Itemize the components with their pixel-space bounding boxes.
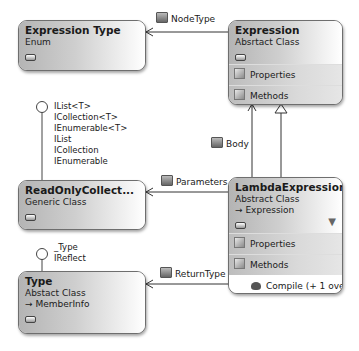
class-lambda-expression[interactable]: LambdaExpression Abstract Class → Expres… [228, 177, 343, 294]
class-kind: Absrtact Class [235, 37, 336, 48]
expand-section-icon [234, 258, 245, 269]
class-kind: Abstact Class [25, 288, 139, 299]
method-compile[interactable]: Compile (+ 1 ove... [229, 275, 342, 294]
interface-lollipop-icon [36, 248, 48, 260]
collapse-toggle-icon[interactable] [25, 54, 36, 61]
expand-section-icon [234, 237, 245, 248]
section-properties[interactable]: Properties [229, 64, 342, 85]
class-name: Expression [235, 24, 336, 37]
collapse-toggle-icon[interactable] [235, 222, 246, 229]
association-label-returntype: ReturnType [160, 267, 226, 280]
expand-section-icon [234, 89, 245, 100]
class-expression-type[interactable]: Expression Type Enum [18, 20, 146, 71]
class-expression[interactable]: Expression Absrtact Class Properties Met… [228, 20, 343, 105]
association-label-parameters: Parameters [161, 175, 228, 188]
interface-lollipop-icon [36, 101, 48, 113]
class-name: Type [25, 275, 139, 288]
interface-list: IList<T> ICollection<T> IEnumerable<T> I… [54, 101, 127, 167]
association-icon [160, 267, 172, 278]
expand-section-icon [234, 68, 245, 79]
interface-list: _Type IReflect [54, 242, 86, 264]
class-readonly-collection[interactable]: ReadOnlyCollect... Generic Class [18, 180, 146, 230]
section-properties[interactable]: Properties [229, 233, 342, 254]
collapse-toggle-icon[interactable] [25, 316, 36, 323]
association-icon [156, 12, 168, 23]
filter-icon[interactable]: ▼ [328, 216, 336, 227]
class-name: LambdaExpression [235, 181, 336, 194]
class-kind: Abstract Class [235, 194, 336, 205]
class-kind: Generic Class [25, 197, 139, 208]
collapse-toggle-icon[interactable] [235, 54, 246, 61]
collapse-toggle-icon[interactable] [25, 214, 36, 221]
base-class: → Expression [235, 205, 336, 216]
section-methods[interactable]: Methods [229, 254, 342, 275]
method-icon [251, 282, 261, 290]
association-label-nodetype: NodeType [156, 12, 215, 25]
class-name: ReadOnlyCollect... [25, 184, 139, 197]
class-type[interactable]: Type Abstact Class → MemberInfo [18, 271, 146, 334]
section-methods[interactable]: Methods [229, 85, 342, 105]
association-label-body: Body [211, 137, 249, 150]
association-icon [211, 137, 223, 148]
class-name: Expression Type [25, 24, 139, 37]
association-icon [161, 175, 173, 186]
inherits-arrow-icon: → [25, 299, 33, 309]
inherits-arrow-icon: → [235, 205, 243, 215]
class-kind: Enum [25, 37, 139, 48]
base-class: → MemberInfo [25, 299, 139, 310]
